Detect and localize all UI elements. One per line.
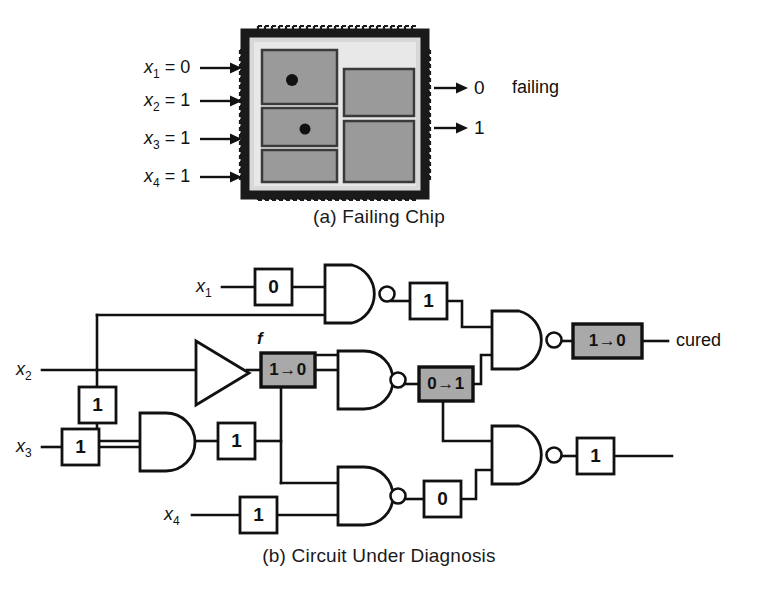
chip-input-name-x3: x <box>144 128 153 148</box>
chip-input-value-x2: 1 <box>180 90 190 110</box>
chip-input-value-x1: 0 <box>180 57 190 77</box>
block-mid-left <box>262 108 337 146</box>
gate-nand-4 <box>338 467 406 525</box>
gate-nand-3 <box>492 311 562 369</box>
circuit-input-name-x3: x <box>16 436 25 456</box>
chip-output-arrows <box>434 83 468 134</box>
chip-input-name-x1: x <box>144 57 153 77</box>
fault-dot-top-left <box>286 74 298 86</box>
chip-input-label-x2: x2 = 1 <box>144 90 190 114</box>
chip-status-note: failing <box>512 77 559 98</box>
circuit-input-label-x3: x3 <box>16 436 32 460</box>
value-box-nand2-out-text: 0→1 <box>419 367 473 401</box>
circuit-input-sub-x1: 1 <box>205 286 212 300</box>
chip-input-name-x4: x <box>144 166 153 186</box>
value-box-nand5-out-text: 1 <box>577 438 614 474</box>
circuit-input-label-x1: x1 <box>196 276 212 300</box>
circuit-input-sub-x3: 3 <box>25 446 32 460</box>
circuit-input-sub-x2: 2 <box>25 369 32 383</box>
chip-input-value-x3: 1 <box>180 128 190 148</box>
chip-input-arrows <box>200 63 242 183</box>
chip-input-label-x4: x4 = 1 <box>144 166 190 190</box>
gate-nand-1 <box>325 265 395 323</box>
chip-output-value-0: 0 <box>474 77 485 99</box>
circuit-input-name-x4: x <box>164 504 173 524</box>
panel-failing-chip: x1 = 0 x2 = 1 x3 = 1 x4 = 1 0 1 failing … <box>0 0 758 245</box>
wire-box0-to-nand5 <box>461 470 492 499</box>
caption-panel-a: (a) Failing Chip <box>0 206 758 228</box>
chip-input-eq-x2: = <box>165 90 176 110</box>
circuit-input-label-x2: x2 <box>16 359 32 383</box>
value-box-nand4-out-text: 0 <box>424 481 461 517</box>
value-box-x4-text: 1 <box>240 497 277 533</box>
circuit-input-sub-x4: 4 <box>173 514 180 528</box>
wire-0to1-down-to-nand5 <box>443 401 492 441</box>
wire-box1-to-nand3 <box>447 301 492 327</box>
gate-buffer <box>196 341 249 405</box>
block-bottom-right <box>344 121 414 182</box>
panel-circuit-under-diagnosis: 0 1 1 1 1 1 0 1 1→0 0→1 1→0 x1 x2 x3 x4 … <box>0 245 758 611</box>
chip-input-eq-x4: = <box>165 166 176 186</box>
chip-input-eq-x1: = <box>165 57 176 77</box>
circuit-output-note: cured <box>676 330 721 351</box>
value-box-x1-text: 0 <box>255 269 292 305</box>
circuit-input-label-x4: x4 <box>164 504 180 528</box>
gate-nand-2 <box>338 351 406 409</box>
circuit-input-name-x2: x <box>16 359 25 379</box>
gate-and-1 <box>140 413 195 471</box>
value-box-x2-text: 1 <box>79 387 116 423</box>
chip-input-name-x2: x <box>144 90 153 110</box>
chip-input-label-x1: x1 = 0 <box>144 57 190 81</box>
chip-output-value-1: 1 <box>474 117 485 139</box>
circuit-input-name-x1: x <box>196 276 205 296</box>
gate-nand-5 <box>492 426 562 484</box>
block-top-left <box>262 50 337 104</box>
value-box-nand1-out-text: 1 <box>410 283 447 319</box>
caption-panel-b: (b) Circuit Under Diagnosis <box>0 545 758 567</box>
circuit-signal-label-f: f <box>257 329 263 349</box>
block-top-right <box>344 69 414 116</box>
chip-input-eq-x3: = <box>165 128 176 148</box>
value-box-x3-text: 1 <box>62 429 99 465</box>
fault-dot-mid-left <box>300 124 311 135</box>
chip-input-value-x4: 1 <box>180 166 190 186</box>
chip-input-sub-x4: 4 <box>153 176 160 190</box>
chip-input-label-x3: x3 = 1 <box>144 128 190 152</box>
chip-input-sub-x1: 1 <box>153 67 160 81</box>
figure-root: x1 = 0 x2 = 1 x3 = 1 x4 = 1 0 1 failing … <box>0 0 758 611</box>
chip-input-sub-x2: 2 <box>153 100 160 114</box>
chip-input-sub-x3: 3 <box>153 138 160 152</box>
value-box-buffer-out-text: 1→0 <box>261 353 315 387</box>
value-box-and-out-text: 1 <box>218 423 255 459</box>
block-bottom-left <box>262 150 337 182</box>
value-box-final-out-text: 1→0 <box>573 324 642 358</box>
